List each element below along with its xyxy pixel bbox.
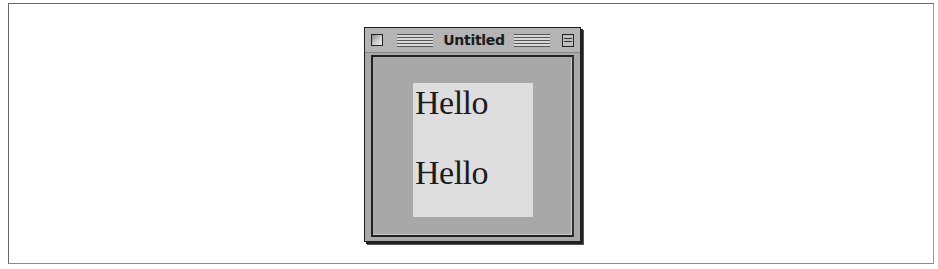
text-panel: Hello Hello [413,83,533,217]
title-stripes-left [397,34,433,47]
title-stripes-right [514,34,550,47]
app-window: Untitled Hello Hello [364,27,581,242]
close-box-icon[interactable] [371,34,383,46]
hello-label-2: Hello [415,156,488,190]
window-title: Untitled [435,31,513,49]
title-bar[interactable]: Untitled [365,28,580,53]
zoom-box-icon[interactable] [562,34,574,47]
hello-label-1: Hello [415,86,488,120]
